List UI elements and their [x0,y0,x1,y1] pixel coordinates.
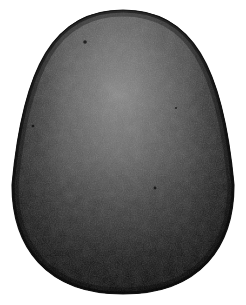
speck-mid-right-icon [154,187,157,190]
illustration-plate [0,0,246,305]
egg-figure [0,0,246,305]
speck-upper-left-icon [83,40,87,44]
speck-upper-right-icon [175,107,177,109]
egg-illustration [0,0,246,305]
speck-left-icon [32,125,35,128]
